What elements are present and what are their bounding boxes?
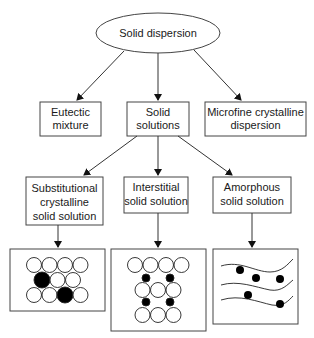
- arrow-to-eutectic: [77, 51, 124, 100]
- substitutional-label-3: solid solution: [33, 210, 97, 222]
- root-node: Solid dispersion: [96, 13, 220, 53]
- dispersed-molecule: [252, 274, 260, 282]
- interstitial-lattice: [111, 249, 206, 331]
- amorphous-label-1: Amorphous: [224, 181, 281, 193]
- solid-solutions-label-2: solutions: [136, 119, 180, 131]
- amorphous-label-2: solid solution: [220, 195, 284, 207]
- substitutional-label-2: crystalline: [40, 196, 89, 208]
- solute-atom: [34, 272, 50, 288]
- eutectic-mixture-node: Eutectic mixture: [40, 102, 101, 136]
- microfine-label-2: dispersion: [230, 119, 280, 131]
- amorphous-structure: [213, 249, 298, 324]
- eutectic-label-1: Eutectic: [51, 106, 91, 118]
- microfine-dispersion-node: Microfine crystalline dispersion: [205, 102, 306, 136]
- arrow-to-microfine: [194, 50, 241, 100]
- dispersed-molecule: [276, 300, 284, 308]
- arrow-to-amorphous: [178, 136, 232, 175]
- interstitial-atom: [166, 274, 174, 282]
- interstitial-node: Interstitial solid solution: [124, 177, 188, 213]
- dispersed-molecule: [236, 266, 244, 274]
- solid-solutions-arrows: [84, 136, 232, 175]
- arrow-to-substitutional: [84, 136, 137, 175]
- solid-solutions-node: Solid solutions: [127, 102, 189, 136]
- interstitial-atom: [142, 298, 150, 306]
- dispersed-molecule: [244, 291, 252, 299]
- interstitial-label-1: Interstitial: [132, 181, 179, 193]
- amorphous-node: Amorphous solid solution: [213, 177, 291, 213]
- interstitial-atom: [142, 274, 150, 282]
- dispersed-molecule: [276, 275, 284, 283]
- microfine-label-1: Microfine crystalline: [207, 106, 304, 118]
- solute-atom: [57, 287, 73, 303]
- substitutional-lattice: [10, 249, 105, 311]
- root-arrows: [77, 50, 241, 100]
- eutectic-label-2: mixture: [52, 119, 88, 131]
- solid-solutions-label-1: Solid: [146, 106, 170, 118]
- interstitial-atom: [166, 298, 174, 306]
- solid-dispersion-diagram: Solid dispersion Eutectic mixture Solid …: [0, 0, 314, 338]
- substitutional-node: Substitutional crystalline solid solutio…: [26, 177, 103, 225]
- substitutional-label-1: Substitutional: [31, 182, 97, 194]
- root-label: Solid dispersion: [119, 27, 197, 39]
- interstitial-label-2: solid solution: [124, 195, 188, 207]
